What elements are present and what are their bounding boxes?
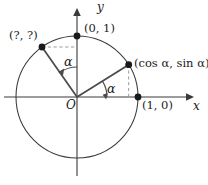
origin-label: O: [66, 99, 76, 111]
unit-circle-figure: y x O (0, 1) (1, 0) (?, ?) (cos α, sin α…: [0, 0, 208, 185]
radius-to-cos-sin: [77, 65, 129, 97]
point-marker-cos-sin: [125, 61, 132, 68]
point-label-cos-sin: (cos α, sin α): [134, 58, 208, 70]
point-label-unknown: (?, ?): [9, 30, 38, 42]
point-marker-top: [74, 33, 81, 40]
point-label-right: (1, 0): [142, 100, 173, 112]
y-axis-arrowhead: [73, 8, 81, 16]
angle-label-upper: α: [64, 56, 72, 69]
angle-label-lower: α: [107, 83, 115, 96]
point-marker-unknown: [39, 44, 46, 51]
point-marker-right: [135, 94, 142, 101]
y-axis-label: y: [97, 1, 104, 13]
point-label-top: (0, 1): [84, 23, 115, 35]
x-axis-label: x: [193, 100, 200, 112]
